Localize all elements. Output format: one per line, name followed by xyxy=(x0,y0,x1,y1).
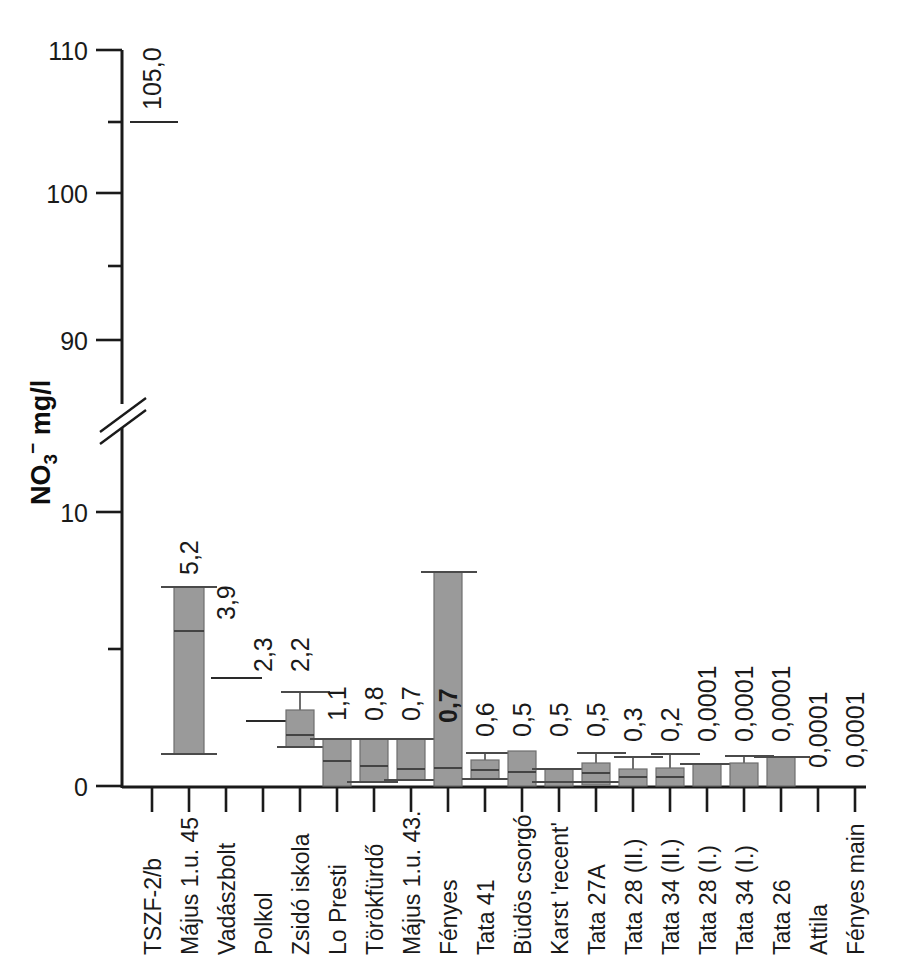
category-label-tata-41: Tata 41 xyxy=(473,880,499,955)
category-labels-layer: TSZF-2/b Május 1.u. 45 Vadászbolt Polkol… xyxy=(140,811,869,955)
category-label-karst-recent: Karst 'recent' xyxy=(547,822,573,955)
value-label-tata-34-ii: 0,2 xyxy=(656,707,684,742)
y-axis: 110 100 90 10 0 xyxy=(46,37,146,801)
x-axis-ticks xyxy=(152,787,855,812)
value-label-tata-28-ii: 0,3 xyxy=(619,707,647,742)
category-label-tata-28-i: Tata 28 (I.) xyxy=(695,845,721,955)
y-axis-label-superscript: − xyxy=(22,443,43,454)
y-axis-label-unit: mg/l xyxy=(26,380,56,443)
category-label-majus-1u-43: Május 1.u. 43. xyxy=(399,811,425,955)
value-label-budos-csorgo: 0,5 xyxy=(508,702,536,737)
category-label-tata-28-ii: Tata 28 (II.) xyxy=(621,839,647,955)
value-label-tata-28-i: 0,0001 xyxy=(693,666,721,742)
category-label-majus-1u-45: Május 1.u. 45 xyxy=(177,817,203,955)
value-label-vadaszbolt: 3,9 xyxy=(212,585,240,620)
datamark-budos-csorgo[interactable] xyxy=(508,751,536,786)
datamark-torokfurdo[interactable] xyxy=(347,739,403,782)
ytick-label-110: 110 xyxy=(48,37,88,65)
datamark-majus-1u-45[interactable] xyxy=(161,587,217,754)
ytick-label-10: 10 xyxy=(60,499,88,527)
chart-svg: NO3− mg/l 110 100 90 10 xyxy=(0,0,897,966)
y-axis-label-subscript: 3 xyxy=(40,454,61,465)
category-label-tszf-2b: TSZF-2/b xyxy=(140,858,166,955)
value-label-tata-27a: 0,5 xyxy=(582,702,610,737)
category-label-zsido-iskola: Zsidó iskola xyxy=(288,833,314,955)
ytick-label-100: 100 xyxy=(46,180,88,208)
datamark-karst-recent[interactable] xyxy=(532,769,588,786)
value-label-majus-1u-45: 5,2 xyxy=(175,540,203,575)
category-label-fenyes-main: Fényes main xyxy=(843,823,869,955)
value-label-zsido-iskola: 2,2 xyxy=(286,637,314,672)
datamark-majus-1u-43[interactable] xyxy=(384,739,440,780)
datamark-tata-41[interactable] xyxy=(462,753,515,779)
category-label-attila: Attila xyxy=(806,904,832,955)
value-label-tata-26: 0,0001 xyxy=(767,666,795,742)
value-label-fenyes: 0,7 xyxy=(434,688,462,723)
value-label-lo-presti: 1,1 xyxy=(323,686,351,721)
value-label-polkol: 2,3 xyxy=(249,637,277,672)
datamark-fenyes[interactable] xyxy=(421,572,477,786)
category-label-tata-27a: Tata 27A xyxy=(584,864,610,955)
chart-container: NO3− mg/l 110 100 90 10 xyxy=(0,0,897,966)
value-label-torokfurdo: 0,8 xyxy=(360,686,388,721)
datamark-tata-26[interactable] xyxy=(754,757,810,786)
datamark-tata-28-i[interactable] xyxy=(680,764,736,786)
category-label-torokfurdo: Törökfürdő xyxy=(362,844,388,955)
category-label-tata-34-ii: Tata 34 (II.) xyxy=(658,839,684,955)
svg-text:NO3− mg/l: NO3− mg/l xyxy=(22,380,61,505)
value-label-tata-41: 0,6 xyxy=(471,702,499,737)
value-label-karst-recent: 0,5 xyxy=(545,702,573,737)
category-label-polkol: Polkol xyxy=(251,892,277,955)
y-axis-label-base: NO xyxy=(26,465,56,506)
datamark-lo-presti[interactable] xyxy=(310,739,366,786)
value-label-tszf-2b: 105,0 xyxy=(138,47,166,110)
category-label-vadaszbolt: Vadászbolt xyxy=(214,842,240,955)
category-label-lo-presti: Lo Presti xyxy=(325,864,351,955)
value-label-attila: 0,0001 xyxy=(804,692,832,768)
category-label-fenyes: Fényes xyxy=(436,880,462,955)
x-axis xyxy=(122,787,866,812)
category-label-budos-csorgo: Büdös csorgó xyxy=(510,814,536,955)
category-label-tata-26: Tata 26 xyxy=(769,880,795,955)
y-axis-label: NO3− mg/l xyxy=(22,380,61,505)
category-label-tata-34-i: Tata 34 (I.) xyxy=(732,845,758,955)
value-label-fenyes-main: 0,0001 xyxy=(841,692,869,768)
value-label-tata-34-i: 0,0001 xyxy=(730,666,758,742)
value-labels-layer: 105,0 5,2 3,9 2,3 2,2 1,1 0,8 0,7 0,7 0,… xyxy=(138,47,869,768)
ytick-label-0: 0 xyxy=(74,773,88,801)
ytick-label-90: 90 xyxy=(60,327,88,355)
value-label-majus-1u-43: 0,7 xyxy=(397,686,425,721)
